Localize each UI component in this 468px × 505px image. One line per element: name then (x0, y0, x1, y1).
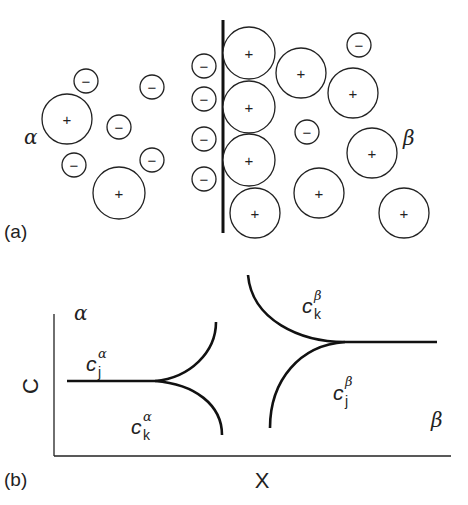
svg-text:c: c (302, 294, 313, 317)
svg-text:α: α (98, 346, 107, 361)
plus-sign-icon: + (245, 152, 254, 169)
svg-text:β: β (313, 288, 322, 303)
cation-ion: + (223, 134, 275, 186)
svg-text:j: j (344, 393, 348, 409)
cj-alpha-curve (155, 322, 216, 381)
phase-alpha-label-b: α (74, 301, 88, 325)
plus-sign-icon: + (349, 85, 358, 102)
svg-text:β: β (344, 374, 353, 389)
svg-text:k: k (143, 427, 151, 443)
minus-sign-icon: − (200, 171, 209, 188)
cation-ion: + (379, 188, 429, 238)
phase-beta-label: β (402, 126, 415, 150)
cation-ion: + (347, 128, 397, 178)
label-ck-alpha: c k α (131, 409, 152, 443)
plus-sign-icon: + (251, 205, 260, 222)
cation-ion: + (93, 167, 145, 219)
ck-alpha-curve (155, 381, 222, 435)
plus-sign-icon: + (63, 111, 72, 128)
cation-ion: + (328, 68, 378, 118)
anion-ion: − (107, 115, 131, 139)
cation-ion: + (294, 168, 344, 218)
minus-sign-icon: − (200, 91, 209, 108)
plus-sign-icon: + (245, 99, 254, 116)
plus-sign-icon: + (245, 45, 254, 62)
anion-ion: − (192, 167, 216, 191)
panel-a-label: (a) (4, 221, 27, 242)
plus-sign-icon: + (297, 65, 306, 82)
panel-a: ++−−−−−−−−−+++++++++−− α β (a) (4, 20, 429, 242)
plus-sign-icon: + (315, 185, 324, 202)
minus-sign-icon: − (148, 152, 157, 169)
anion-ion: − (192, 87, 216, 111)
anion-ion: − (192, 54, 216, 78)
minus-sign-icon: − (200, 131, 209, 148)
x-axis-label: X (255, 468, 270, 493)
phase-alpha-label: α (24, 125, 38, 149)
cation-ion: + (230, 188, 280, 238)
svg-text:c: c (333, 381, 344, 404)
plus-sign-icon: + (115, 185, 124, 202)
anion-ion: − (295, 120, 319, 144)
cation-ion: + (276, 48, 326, 98)
label-cj-beta: c j β (333, 374, 353, 409)
panel-b-label: (b) (4, 469, 27, 490)
plus-sign-icon: + (368, 145, 377, 162)
cation-ion: + (223, 27, 275, 79)
phase-beta-label-b: β (430, 408, 443, 432)
anion-ion: − (140, 75, 164, 99)
minus-sign-icon: − (70, 157, 79, 174)
svg-text:c: c (131, 415, 142, 438)
cation-ion: + (42, 94, 92, 144)
svg-text:c: c (86, 352, 97, 375)
minus-sign-icon: − (200, 58, 209, 75)
svg-text:α: α (143, 409, 152, 424)
label-cj-alpha: c j α (86, 346, 107, 380)
svg-text:j: j (97, 364, 101, 380)
anion-ion: − (347, 33, 371, 57)
cation-ion: + (223, 81, 275, 133)
anion-ion: − (62, 153, 86, 177)
y-axis-label: C (18, 378, 43, 394)
figure: ++−−−−−−−−−+++++++++−− α β (a) C X (b) α… (0, 0, 468, 505)
minus-sign-icon: − (355, 37, 364, 54)
plus-sign-icon: + (400, 205, 409, 222)
minus-sign-icon: − (148, 79, 157, 96)
ion-group: ++−−−−−−−−−+++++++++−− (42, 27, 429, 238)
minus-sign-icon: − (303, 124, 312, 141)
anion-ion: − (74, 69, 98, 93)
anion-ion: − (140, 148, 164, 172)
svg-text:k: k (314, 306, 322, 322)
minus-sign-icon: − (115, 119, 124, 136)
minus-sign-icon: − (82, 73, 91, 90)
panel-b: C X (b) α β c j α c k α c k β c j (4, 275, 451, 493)
anion-ion: − (192, 127, 216, 151)
ck-beta-curve (248, 275, 345, 342)
label-ck-beta: c k β (302, 288, 322, 322)
